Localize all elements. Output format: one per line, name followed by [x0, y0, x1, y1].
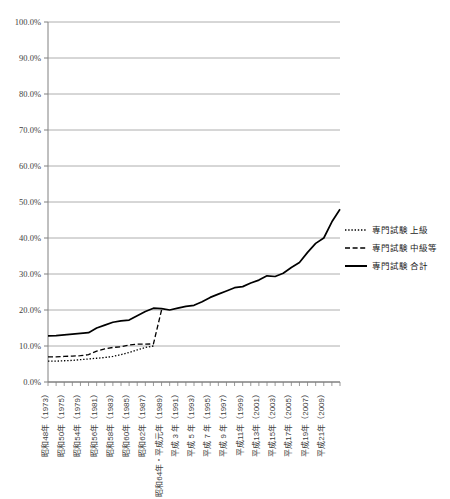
- y-axis-tick-label: 20.0%: [19, 305, 41, 315]
- legend-label: 専門試験 中級等: [372, 243, 437, 253]
- legend: 専門試験 上級専門試験 中級等専門試験 合計: [345, 225, 437, 271]
- x-axis-tick-label: 昭和64年・平成元年（1989）: [154, 390, 164, 497]
- x-axis-tick-label: 昭和56年（1981）: [89, 390, 99, 457]
- series-line: [48, 209, 340, 336]
- x-axis-tick-label: 平成13年（2001）: [251, 390, 261, 457]
- x-axis-tick-labels: 昭和48年（1973）昭和50年（1975）昭和54年（1979）昭和56年（1…: [40, 390, 326, 497]
- x-axis-tick-label: 昭和48年（1973）: [40, 390, 50, 457]
- x-axis-tick-label: 昭和62年（1987）: [137, 390, 147, 457]
- legend-label: 専門試験 合計: [372, 261, 428, 271]
- data-series-group: [48, 209, 340, 361]
- y-axis-tick-label: 50.0%: [19, 197, 41, 207]
- x-axis-tick-label: 平成19年（2007）: [300, 390, 310, 457]
- x-axis-tick-label: 平成21年（2009）: [316, 390, 326, 457]
- legend-label: 専門試験 上級: [372, 225, 428, 235]
- x-axis-tick-label: 平成 9 年（1997）: [218, 390, 228, 457]
- x-axis-tick-label: 平成 5 年（1993）: [186, 390, 196, 457]
- y-axis-tick-labels: 100.0%90.0%80.0%70.0%60.0%50.0%40.0%30.0…: [15, 17, 48, 387]
- chart-container: 100.0%90.0%80.0%70.0%60.0%50.0%40.0%30.0…: [0, 0, 450, 499]
- x-axis-ticks: [48, 382, 340, 386]
- x-axis-tick-label: 平成11年（1999）: [235, 390, 245, 456]
- y-axis-tick-label: 0.0%: [23, 377, 41, 387]
- y-axis-tick-label: 30.0%: [19, 269, 41, 279]
- line-chart: 100.0%90.0%80.0%70.0%60.0%50.0%40.0%30.0…: [0, 0, 450, 499]
- x-axis-tick-label: 昭和58年（1983）: [105, 390, 115, 457]
- y-axis-tick-label: 60.0%: [19, 161, 41, 171]
- y-axis-tick-label: 100.0%: [15, 17, 41, 27]
- gridlines: [48, 22, 340, 382]
- x-axis-tick-label: 昭和50年（1975）: [56, 390, 66, 457]
- y-axis-tick-label: 10.0%: [19, 341, 41, 351]
- x-axis-tick-label: 平成15年（2003）: [267, 390, 277, 457]
- x-axis-tick-label: 平成17年（2005）: [283, 390, 293, 457]
- series-line: [48, 346, 153, 361]
- x-axis-tick-label: 昭和54年（1979）: [72, 390, 82, 457]
- y-axis-tick-label: 70.0%: [19, 125, 41, 135]
- series-line: [48, 310, 162, 357]
- x-axis-tick-label: 平成 3 年（1991）: [170, 390, 180, 457]
- x-axis-tick-label: 昭和60年（1985）: [121, 390, 131, 457]
- y-axis-tick-label: 40.0%: [19, 233, 41, 243]
- x-axis-tick-label: 平成 7 年（1995）: [202, 390, 212, 457]
- y-axis-tick-label: 80.0%: [19, 89, 41, 99]
- y-axis-tick-label: 90.0%: [19, 53, 41, 63]
